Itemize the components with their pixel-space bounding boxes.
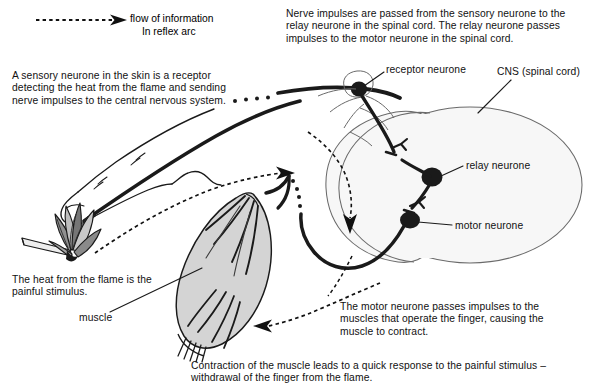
legend-line-2: In reflex arc <box>124 25 214 38</box>
legend-label: flow of information In reflex arc <box>130 12 214 38</box>
reflex-arc-diagram: flow of information In reflex arc A sens… <box>0 0 596 389</box>
receptor-neurone-cell <box>344 71 373 97</box>
label-relay-neurone: relay neurone <box>466 160 530 172</box>
finger-shape <box>61 109 221 224</box>
annotation-heat-stimulus: The heat from the flame is the painful s… <box>12 274 182 299</box>
annotation-nerve-impulses: Nerve impulses are passed from the senso… <box>286 8 586 45</box>
label-receptor-neurone: receptor neurone <box>386 64 466 76</box>
muscle-shape <box>176 193 271 362</box>
flow-arrow-cord-exit <box>328 256 352 296</box>
label-muscle: muscle <box>79 312 112 324</box>
relay-neurone-cell <box>422 167 443 186</box>
legend-line-1: flow of information <box>130 13 214 24</box>
spinal-cord-shape <box>326 107 582 263</box>
label-motor-neurone: motor neurone <box>455 220 523 232</box>
legend-arrow-icon <box>36 15 127 26</box>
label-cns: CNS (spinal cord) <box>497 66 580 78</box>
annotation-contraction: Contraction of the muscle leads to a qui… <box>191 360 591 385</box>
annotation-motor-neurone: The motor neurone passes impulses to the… <box>340 301 555 338</box>
annotation-sensory-neurone: A sensory neurone in the skin is a recep… <box>12 70 240 107</box>
